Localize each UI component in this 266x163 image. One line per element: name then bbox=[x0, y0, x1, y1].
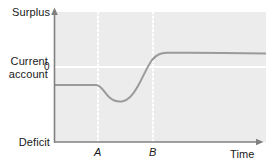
y-axis-title: Currentaccount bbox=[9, 55, 48, 81]
plot-area-background bbox=[55, 12, 266, 142]
chart-figure: Surplus Currentaccount 0 Deficit A B Tim… bbox=[0, 0, 266, 163]
x-tick-label-b: B bbox=[149, 146, 156, 158]
y-axis-arrowhead bbox=[51, 8, 58, 16]
x-tick-label-a: A bbox=[94, 146, 101, 158]
x-axis-title: Time bbox=[230, 148, 254, 160]
y-tick-label-zero: 0 bbox=[44, 61, 50, 73]
y-axis-bottom-label: Deficit bbox=[19, 136, 50, 148]
y-axis-top-label: Surplus bbox=[12, 6, 50, 18]
